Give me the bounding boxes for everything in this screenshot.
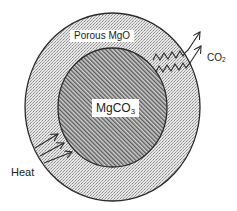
co2-subscript: 2 — [222, 56, 226, 63]
co2-text: CO — [207, 52, 222, 63]
heat-text: Heat — [11, 166, 34, 178]
co2-label: CO2 — [207, 53, 226, 63]
mgco3-text: MgCO — [96, 101, 131, 115]
porous-mgo-label: Porous MgO — [70, 30, 134, 42]
porous-mgo-text: Porous MgO — [74, 30, 130, 41]
mgco3-subscript: 3 — [131, 107, 135, 116]
mgco3-label: MgCO3 — [92, 99, 139, 117]
heat-label: Heat — [11, 167, 34, 178]
